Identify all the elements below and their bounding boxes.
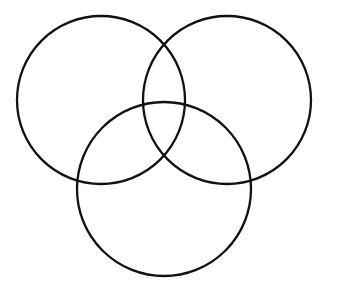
venn-diagram-canvas <box>0 0 346 285</box>
venn-diagram-svg <box>0 0 346 285</box>
